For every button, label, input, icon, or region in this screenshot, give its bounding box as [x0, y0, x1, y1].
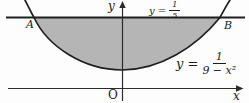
curve-equation-label: y = 1 9 − x²: [176, 51, 237, 76]
point-b-label: B: [224, 20, 232, 31]
point-a-label: A: [26, 19, 34, 30]
y-axis-label: y: [108, 0, 115, 12]
line-equation-lhs: y =: [149, 6, 166, 16]
line-equation-label: y = 1 5: [149, 1, 180, 20]
math-diagram: y x O A B y = 1 5 y = 1 9 − x²: [0, 0, 249, 103]
curve-equation-numerator: 1: [213, 51, 226, 64]
curve-equation-fraction: 1 9 − x²: [201, 51, 237, 76]
line-equation-denominator: 5: [171, 11, 178, 20]
line-equation-numerator: 1: [169, 1, 180, 11]
x-axis-label: x: [233, 90, 240, 102]
y-axis-arrowhead-icon: [119, 1, 125, 8]
curve-equation-lhs: y =: [176, 57, 198, 70]
curve-equation-denominator: 9 − x²: [201, 64, 237, 76]
origin-label: O: [108, 89, 118, 101]
line-equation-fraction: 1 5: [169, 1, 180, 20]
